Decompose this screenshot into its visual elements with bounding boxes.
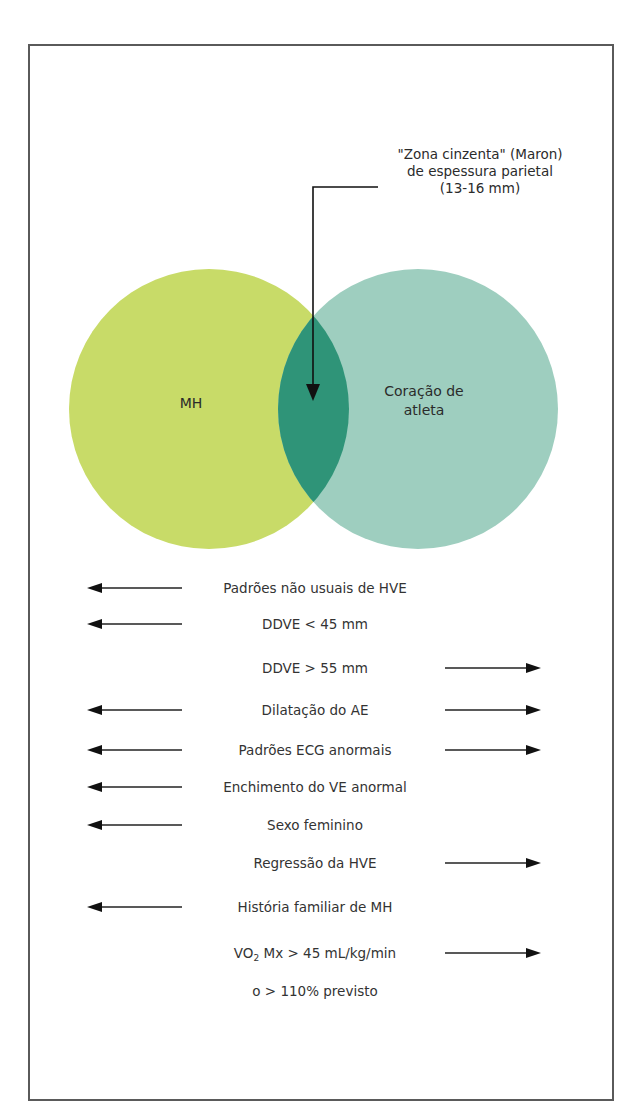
criterion-label: Enchimento do VE anormal (160, 778, 470, 796)
criterion-label: DDVE < 45 mm (160, 615, 470, 633)
athlete-heart-label-line-1: Coração de (374, 382, 474, 401)
criterion-label: Dilatação do AE (160, 701, 470, 719)
criterion-label: História familiar de MH (160, 898, 470, 916)
athlete-heart-label: Coração de atleta (374, 382, 474, 420)
mh-label: MH (171, 394, 211, 413)
criterion-label: Padrões ECG anormais (160, 741, 470, 759)
criterion-label: Regressão da HVE (160, 854, 470, 872)
athlete-heart-label-line-2: atleta (374, 401, 474, 420)
criterion-label: o > 110% previsto (160, 982, 470, 1000)
callout-line-3: (13-16 mm) (380, 180, 580, 197)
callout-line-2: de espessura parietal (380, 163, 580, 180)
callout-line-1: "Zona cinzenta" (Maron) (380, 146, 580, 163)
subscript: 2 (253, 953, 259, 963)
criterion-label: DDVE > 55 mm (160, 659, 470, 677)
criterion-label: Sexo feminino (160, 816, 470, 834)
gray-zone-callout: "Zona cinzenta" (Maron) de espessura par… (380, 146, 580, 197)
criterion-label: Padrões não usuais de HVE (160, 579, 470, 597)
criterion-label: VO2 Mx > 45 mL/kg/min (160, 944, 470, 962)
